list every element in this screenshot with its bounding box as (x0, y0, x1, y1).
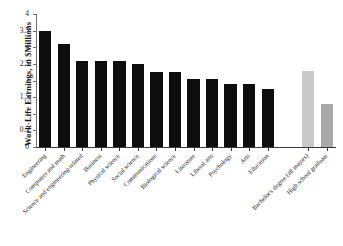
x-axis-tick (101, 147, 102, 151)
x-axis-tick (212, 147, 213, 151)
bar-series (36, 14, 336, 147)
x-axis-tick (64, 147, 65, 151)
bar (321, 104, 333, 147)
bar (302, 71, 314, 147)
x-axis-tick (268, 147, 269, 151)
bar (187, 79, 199, 147)
x-axis-tick (194, 147, 195, 151)
bar (243, 84, 255, 147)
bar (76, 61, 88, 147)
bar (169, 72, 181, 147)
x-axis-tick (119, 147, 120, 151)
x-axis-tick (175, 147, 176, 151)
bar (206, 79, 218, 147)
x-axis-tick (156, 147, 157, 151)
bar (132, 64, 144, 147)
bar (39, 31, 51, 147)
plot-area: 00.511.522.533.54 (36, 14, 336, 148)
bar (113, 61, 125, 147)
x-axis-tick (231, 147, 232, 151)
y-axis-tick-label: 1.5 (3, 93, 29, 101)
bar (95, 61, 107, 147)
y-axis-tick-label: 0 (3, 143, 29, 151)
x-axis-tick (327, 147, 328, 151)
x-axis-label: Arts (238, 152, 251, 165)
y-axis-tick-label: 3 (3, 43, 29, 51)
bar (150, 72, 162, 147)
x-axis-tick (308, 147, 309, 151)
x-axis-labels: EngineeringComputers and mathScience and… (36, 152, 343, 246)
y-axis-tick-label: 3.5 (3, 27, 29, 35)
bar (224, 84, 236, 147)
y-axis-tick-label: 1 (3, 110, 29, 118)
bar (58, 44, 70, 147)
x-axis-line (36, 147, 336, 148)
y-axis-tick-label: 2.5 (3, 60, 29, 68)
x-axis-tick (249, 147, 250, 151)
x-axis-label: Biological science (139, 152, 177, 190)
x-axis-tick (82, 147, 83, 151)
x-axis-tick (45, 147, 46, 151)
y-axis-tick (33, 147, 37, 148)
y-axis-tick-label: 2 (3, 77, 29, 85)
y-axis-tick-label: 0.5 (3, 126, 29, 134)
bar (262, 89, 274, 147)
y-axis-tick-label: 4 (3, 10, 29, 18)
x-axis-tick (138, 147, 139, 151)
chart-figure: Work-Life Earnings, in $Millions 00.511.… (0, 0, 343, 246)
